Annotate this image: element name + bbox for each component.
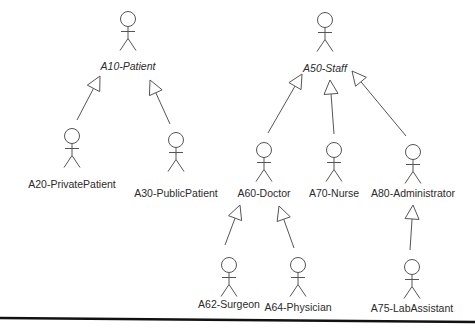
generalization-arrow-a75-to-a80 xyxy=(405,205,419,250)
actor-icon xyxy=(404,260,420,299)
hollow-triangle-arrowhead-icon xyxy=(229,205,242,221)
hollow-triangle-arrowhead-icon xyxy=(87,76,100,92)
hollow-triangle-arrowhead-icon xyxy=(352,71,366,86)
hollow-triangle-arrowhead-icon xyxy=(289,74,302,90)
actor-label-a60: A60-Doctor xyxy=(237,187,290,199)
actor-icon xyxy=(290,258,306,297)
actor-icon xyxy=(168,133,184,172)
actor-icon xyxy=(317,13,333,52)
generalization-arrow-a60-to-a50 xyxy=(268,74,302,133)
actor-label-a30: A30-PublicPatient xyxy=(134,187,217,199)
actor-label-a50: A50-Staff xyxy=(303,62,347,74)
hollow-triangle-arrowhead-icon xyxy=(324,80,338,94)
diagram-canvas xyxy=(0,0,475,328)
actor-figures xyxy=(64,12,421,299)
actor-icon xyxy=(120,12,136,51)
generalization-arrow-a64-to-a60 xyxy=(277,206,294,248)
actor-label-a64: A64-Physician xyxy=(264,301,331,313)
hollow-triangle-arrowhead-icon xyxy=(277,206,290,222)
actor-label-a10: A10-Patient xyxy=(101,60,156,72)
generalization-arrow-a30-to-a10 xyxy=(149,80,170,124)
actor-icon xyxy=(221,258,237,297)
hollow-triangle-arrowhead-icon xyxy=(405,205,419,219)
generalization-arrow-a62-to-a60 xyxy=(225,205,242,245)
actor-icon xyxy=(256,143,272,182)
actor-label-a20: A20-PrivatePatient xyxy=(28,178,116,190)
generalization-arrow-a80-to-a50 xyxy=(352,71,406,136)
generalization-arrow-a70-to-a50 xyxy=(324,80,338,134)
actor-label-a62: A62-Surgeon xyxy=(198,298,260,310)
bottom-border-line xyxy=(0,318,475,322)
generalization-arrow-a20-to-a10 xyxy=(77,76,100,120)
actor-label-a80: A80-Administrator xyxy=(371,187,455,199)
actor-icon xyxy=(64,129,80,168)
generalization-arrows xyxy=(77,71,419,250)
actor-icon xyxy=(405,145,421,184)
actor-label-a70: A70-Nurse xyxy=(309,187,359,199)
actor-icon xyxy=(326,143,342,182)
actor-label-a75: A75-LabAssistant xyxy=(371,302,453,314)
